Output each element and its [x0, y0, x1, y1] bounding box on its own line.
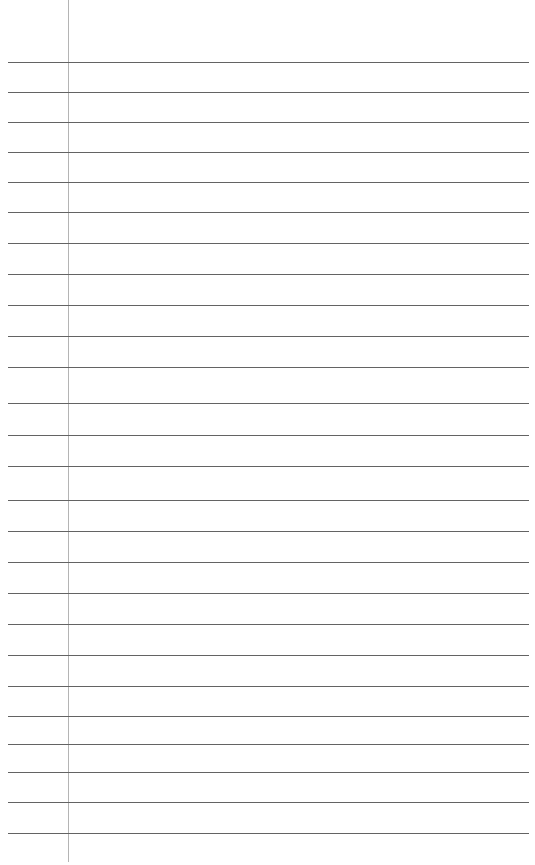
ruled-line — [8, 744, 529, 745]
ruled-line — [8, 336, 529, 337]
ruled-line — [8, 686, 529, 687]
ruled-line — [8, 802, 529, 803]
ruled-line — [8, 655, 529, 656]
ruled-line — [8, 466, 529, 467]
ruled-line — [8, 92, 529, 93]
vertical-margin-line — [68, 0, 69, 862]
ruled-line — [8, 500, 529, 501]
ruled-line — [8, 182, 529, 183]
ruled-line — [8, 367, 529, 368]
ruled-line — [8, 562, 529, 563]
ruled-line — [8, 122, 529, 123]
ruled-line — [8, 531, 529, 532]
ruled-line — [8, 716, 529, 717]
ruled-line — [8, 274, 529, 275]
lined-paper-page — [0, 0, 535, 865]
ruled-line — [8, 593, 529, 594]
ruled-line — [8, 212, 529, 213]
ruled-line — [8, 403, 529, 404]
ruled-line — [8, 435, 529, 436]
ruled-line — [8, 305, 529, 306]
ruled-line — [8, 152, 529, 153]
ruled-line — [8, 243, 529, 244]
ruled-line — [8, 624, 529, 625]
paper-surface — [0, 0, 535, 865]
ruled-line — [8, 772, 529, 773]
ruled-line — [8, 62, 529, 63]
ruled-line — [8, 833, 529, 834]
